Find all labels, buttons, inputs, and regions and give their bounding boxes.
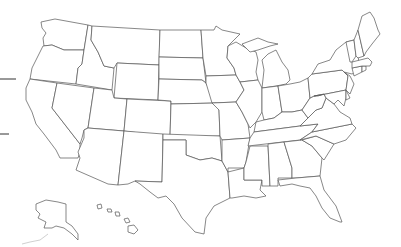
state-or[interactable]: [30, 45, 84, 84]
state-az[interactable]: [76, 128, 124, 185]
state-nd[interactable]: [159, 30, 203, 58]
state-hi[interactable]: [97, 204, 138, 234]
state-ak[interactable]: [36, 200, 78, 240]
aleutian-islands: [22, 234, 48, 244]
state-ks[interactable]: [170, 103, 220, 137]
state-ri[interactable]: [362, 66, 366, 72]
state-nm[interactable]: [118, 131, 163, 185]
state-wy[interactable]: [114, 63, 159, 100]
us-states-outline-map: [0, 0, 401, 247]
state-fl[interactable]: [278, 176, 342, 222]
